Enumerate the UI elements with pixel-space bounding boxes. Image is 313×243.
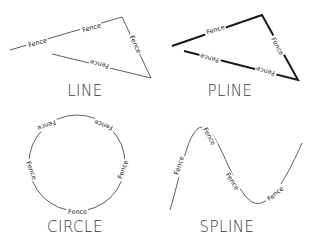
- pline-example: Fence Fence Fence Fence PLINE: [172, 15, 298, 100]
- fence-label: Fence: [172, 155, 186, 176]
- fence-label: Fence: [68, 208, 87, 216]
- fence-label: Fence: [205, 23, 226, 37]
- spline-example: Fence Fence Fence Fence SPLINE: [170, 124, 302, 236]
- fence-label: Fence: [269, 36, 285, 57]
- linetype-diagram: Fence Fence Fence Fence LINE Fence Fence…: [0, 0, 313, 243]
- fence-label: Fence: [255, 65, 275, 77]
- pline-title: PLINE: [207, 82, 252, 100]
- fence-label: Fence: [201, 126, 217, 147]
- fence-label: Fence: [199, 52, 219, 64]
- fence-label: Fence: [266, 184, 286, 202]
- line-example: Fence Fence Fence Fence LINE: [10, 17, 151, 100]
- fence-label: Fence: [27, 36, 48, 49]
- fence-label: Fence: [24, 160, 38, 181]
- fence-label: Fence: [93, 118, 114, 132]
- fence-label: Fence: [116, 159, 130, 180]
- circle-example: Fence Fence Fence Fence Fence CIRCLE: [23, 115, 130, 236]
- line-title: LINE: [67, 82, 102, 100]
- fence-label: Fence: [81, 21, 102, 34]
- fence-label: Fence: [36, 118, 57, 132]
- fence-label: Fence: [224, 171, 241, 191]
- circle-title: CIRCLE: [47, 218, 103, 236]
- fence-label: Fence: [89, 58, 109, 70]
- fence-label: Fence: [128, 34, 143, 55]
- spline-title: SPLINE: [199, 218, 254, 236]
